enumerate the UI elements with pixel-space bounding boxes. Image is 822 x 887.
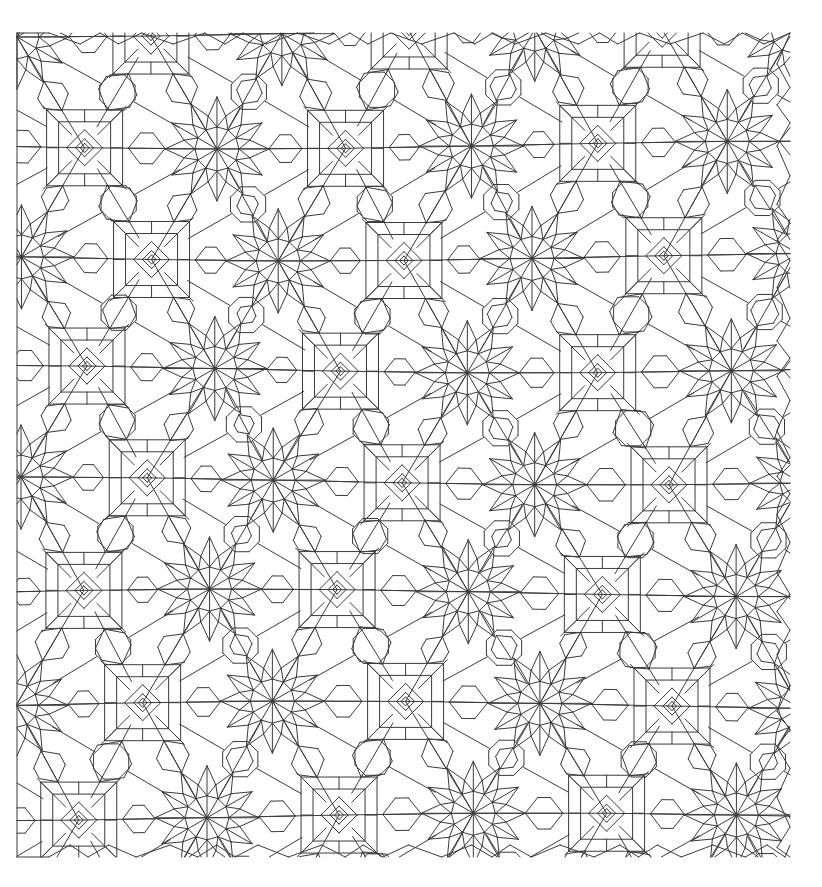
tiling-drawing: Quasi-periodic 12-fold Islamic geometric… (0, 0, 822, 887)
figure-root: Quasi-periodic 12-fold Islamic geometric… (0, 0, 822, 887)
figure-background (0, 0, 822, 887)
